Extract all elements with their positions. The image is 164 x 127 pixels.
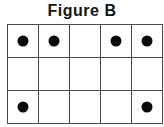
cell-r2c1[interactable]: [8, 58, 39, 91]
cell-r2c3[interactable]: [70, 58, 101, 91]
cell-r3c5[interactable]: [132, 91, 163, 124]
grid-row-3: [8, 91, 163, 124]
cell-r1c5[interactable]: [132, 25, 163, 58]
grid-row-1: [8, 25, 163, 58]
cell-r3c2[interactable]: [39, 91, 70, 124]
cell-r1c1[interactable]: [8, 25, 39, 58]
dot-grid: [7, 24, 163, 124]
grid-row-2: [8, 58, 163, 91]
page-title: Figure B: [0, 1, 164, 20]
cell-r1c3[interactable]: [70, 25, 101, 58]
dot-grid-body: [8, 25, 163, 124]
figure-panel: Figure B: [0, 0, 164, 127]
dot-marker-icon: [142, 102, 153, 113]
dot-marker-icon: [49, 36, 60, 47]
dot-marker-icon: [142, 36, 153, 47]
cell-r2c5[interactable]: [132, 58, 163, 91]
cell-r1c4[interactable]: [101, 25, 132, 58]
dot-marker-icon: [18, 36, 29, 47]
dot-marker-icon: [111, 36, 122, 47]
cell-r2c2[interactable]: [39, 58, 70, 91]
cell-r3c1[interactable]: [8, 91, 39, 124]
dot-marker-icon: [18, 102, 29, 113]
dot-grid-container: [7, 24, 157, 120]
cell-r2c4[interactable]: [101, 58, 132, 91]
cell-r3c4[interactable]: [101, 91, 132, 124]
cell-r3c3[interactable]: [70, 91, 101, 124]
cell-r1c2[interactable]: [39, 25, 70, 58]
